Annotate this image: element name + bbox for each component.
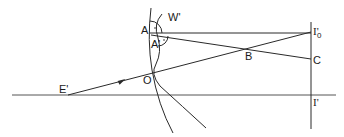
angle-dot-a [154,27,156,29]
label-i-prime: I' [313,96,319,108]
label-w-prime: W' [168,11,180,23]
label-a: A [141,24,149,36]
label-c: C [313,54,321,66]
angle-dot-a-prime [163,39,165,41]
label-b: B [245,50,252,62]
label-a-prime: A' [151,38,160,50]
label-e-prime: E' [59,83,68,95]
label-i-prime-0-subscript: 0 [317,31,322,40]
ray-e-to-i0 [68,32,311,95]
label-o: O [143,74,152,86]
optics-diagram: A A' W' O B C E' I' 0 I' [0,0,344,137]
